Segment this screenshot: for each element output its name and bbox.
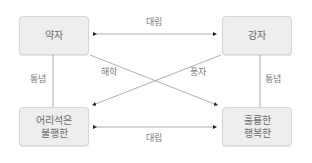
- humor-label: 해학: [101, 67, 117, 77]
- satire-label: 풍자: [190, 67, 206, 77]
- left-relation-label: 통념: [30, 74, 46, 84]
- top-relation-label: 대립: [146, 17, 162, 27]
- node-foolish-unhappy: 어리석은 불행한: [19, 107, 89, 146]
- node-weak-label: 약자: [45, 29, 63, 42]
- node-great-label: 훌륭한: [244, 114, 271, 127]
- node-weak: 약자: [19, 16, 89, 55]
- bottom-relation-label: 대립: [146, 133, 162, 143]
- right-relation-label: 통념: [265, 74, 281, 84]
- node-happy-label: 행복한: [244, 127, 271, 140]
- diagonal-arrow-weak-to-great: [90, 55, 217, 105]
- node-unhappy-label: 불행한: [41, 127, 68, 140]
- node-great-happy: 훌륭한 행복한: [222, 107, 292, 146]
- node-strong-label: 강자: [248, 29, 266, 42]
- diagram: 약자 강자 어리석은 불행한 훌륭한 행복한 대립 대립 통념 통념 해학 풍자: [0, 0, 312, 163]
- diagonal-arrow-strong-to-foolish: [93, 55, 221, 105]
- node-strong: 강자: [222, 16, 292, 55]
- node-foolish-label: 어리석은: [36, 114, 72, 127]
